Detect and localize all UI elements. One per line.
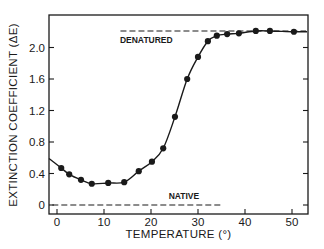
data-point bbox=[253, 28, 259, 34]
data-point bbox=[58, 165, 64, 171]
y-tick-label: 1.6 bbox=[29, 73, 45, 85]
data-point bbox=[224, 31, 230, 37]
chart-svg: 00.40.81.21.62.0 01020304050 DENATUREDNA… bbox=[0, 0, 324, 249]
x-tick-label: 0 bbox=[54, 216, 60, 228]
y-tick-label: 0.8 bbox=[29, 136, 45, 148]
data-point bbox=[66, 171, 72, 177]
data-point bbox=[136, 168, 142, 174]
annotation-denatured: DENATURED bbox=[120, 35, 173, 45]
data-point bbox=[184, 76, 190, 82]
x-axis-title: TEMPERATURE (°) bbox=[49, 228, 308, 240]
data-point bbox=[195, 54, 201, 60]
y-tick-label: 0 bbox=[39, 199, 45, 211]
data-point bbox=[291, 29, 297, 35]
reference-lines bbox=[52, 31, 306, 205]
data-point bbox=[214, 33, 220, 39]
data-point bbox=[205, 38, 211, 44]
x-tick-label: 10 bbox=[98, 216, 111, 228]
data-point bbox=[172, 114, 178, 120]
x-tick-label: 20 bbox=[145, 216, 158, 228]
y-axis-title-text: EXTINCTION COEFFICIENT (ΔE) bbox=[7, 23, 19, 207]
x-axis-ticks: 01020304050 bbox=[54, 209, 299, 228]
data-point bbox=[121, 179, 127, 185]
fitted-curve bbox=[49, 31, 307, 184]
y-axis-ticks: 00.40.81.21.62.0 bbox=[29, 42, 308, 212]
data-point bbox=[149, 159, 155, 165]
x-tick-label: 50 bbox=[286, 216, 299, 228]
data-point bbox=[236, 30, 242, 36]
x-tick-label: 40 bbox=[239, 216, 252, 228]
data-point bbox=[267, 28, 273, 34]
y-tick-label: 2.0 bbox=[29, 42, 45, 54]
data-point bbox=[89, 181, 95, 187]
x-tick-label: 30 bbox=[192, 216, 205, 228]
data-point bbox=[78, 177, 84, 183]
y-tick-label: 0.4 bbox=[29, 168, 46, 180]
y-tick-label: 1.2 bbox=[29, 105, 45, 117]
y-axis-title: EXTINCTION COEFFICIENT (ΔE) bbox=[2, 15, 24, 215]
annotation-native: NATIVE bbox=[169, 191, 200, 201]
data-point bbox=[105, 180, 111, 186]
plot-frame bbox=[49, 15, 308, 214]
data-point bbox=[160, 145, 166, 151]
